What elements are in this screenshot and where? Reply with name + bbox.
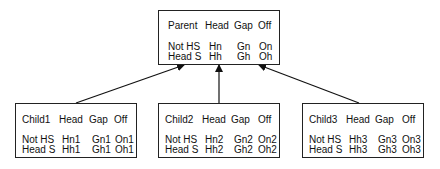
cell-head: Hh2	[205, 144, 223, 155]
col-head: Head	[346, 114, 370, 125]
col-head: Head	[202, 114, 226, 125]
cell-off: Oh1	[115, 144, 134, 155]
child2-header-row: Child2 Head Gap Off	[159, 114, 279, 125]
child2-node: Child2 Head Gap Off Not HS Hn2 Gn2 On2 H…	[158, 103, 280, 158]
cell-gap: Gh3	[378, 144, 397, 155]
cell-off: Oh3	[402, 144, 421, 155]
child3-header-row: Child3 Head Gap Off	[303, 114, 423, 125]
cell-gap: Gh	[237, 51, 250, 62]
col-gap: Gap	[89, 114, 108, 125]
col-gap: Gap	[234, 20, 253, 31]
cell-gap: Gh1	[92, 144, 111, 155]
arrow-child3-to-parent	[259, 65, 359, 103]
row-label: Head S	[168, 51, 201, 62]
parent-header-row: Parent Head Gap Off	[159, 20, 279, 31]
col-off: Off	[258, 20, 271, 31]
child2-row-head-s: Head S Hh2 Gh2 Oh2	[159, 144, 279, 155]
child1-node: Child1 Head Gap Off Not HS Hn1 Gn1 On1 H…	[15, 103, 137, 158]
col-gap: Gap	[231, 114, 250, 125]
col-off: Off	[402, 114, 415, 125]
child1-header-row: Child1 Head Gap Off	[16, 114, 136, 125]
row-label: Head S	[165, 144, 198, 155]
cell-head: Hh	[209, 51, 222, 62]
cell-off: Oh2	[258, 144, 277, 155]
cell-gap: Gh2	[234, 144, 253, 155]
child1-row-head-s: Head S Hh1 Gh1 Oh1	[16, 144, 136, 155]
parent-node: Parent Head Gap Off Not HS Hn Gn On Head…	[158, 10, 280, 65]
col-gap: Gap	[375, 114, 394, 125]
row-label: Head S	[22, 144, 55, 155]
cell-off: Oh	[259, 51, 272, 62]
row-label: Head S	[309, 144, 342, 155]
col-head: Head	[59, 114, 83, 125]
child2-title: Child2	[165, 114, 193, 125]
cell-head: Hh1	[62, 144, 80, 155]
child3-title: Child3	[309, 114, 337, 125]
child1-title: Child1	[22, 114, 50, 125]
parent-row-head-s: Head S Hh Gh Oh	[159, 51, 279, 62]
col-off: Off	[258, 114, 271, 125]
col-off: Off	[114, 114, 127, 125]
parent-title: Parent	[168, 20, 197, 31]
arrow-child1-to-parent	[76, 65, 184, 103]
cell-head: Hh3	[349, 144, 367, 155]
col-head: Head	[205, 20, 229, 31]
child3-node: Child3 Head Gap Off Not HS Hh3 Gn3 On3 H…	[302, 103, 424, 158]
child3-row-head-s: Head S Hh3 Gh3 Oh3	[303, 144, 423, 155]
